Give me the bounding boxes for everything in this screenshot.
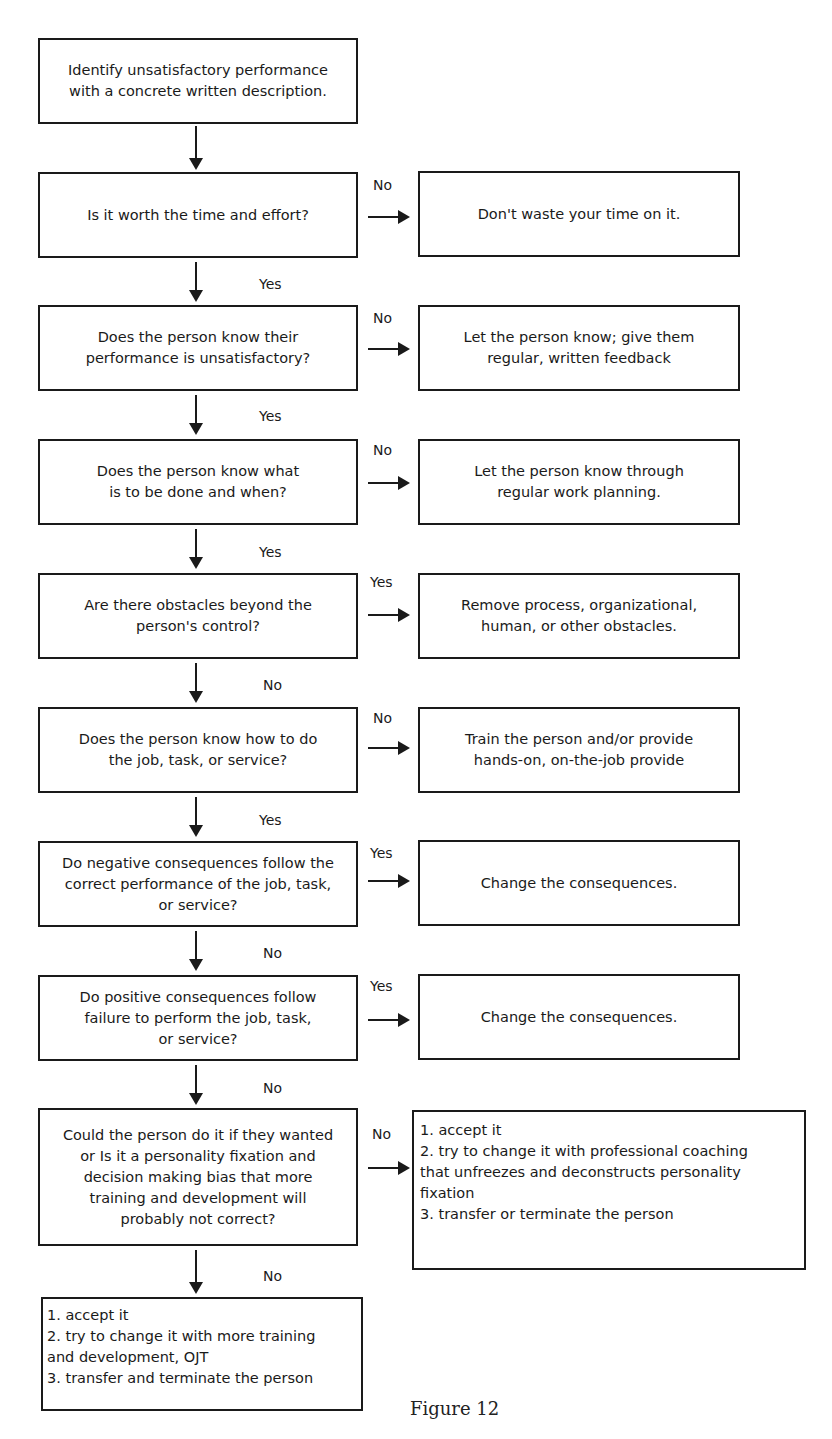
action-text-line: 1. accept it <box>420 1120 748 1141</box>
action-text-line: human, or other obstacles. <box>461 616 697 637</box>
action-text-line: Remove process, organizational, <box>461 595 697 616</box>
question-text-line: or service? <box>62 895 334 916</box>
down-arrow-icon <box>195 931 197 969</box>
action-text-line: Train the person and/or provide <box>465 729 693 750</box>
down-arrow-icon <box>195 1065 197 1103</box>
action-text-line: Let the person know through <box>474 461 684 482</box>
decision-box-positive-consequences: Do positive consequences follow failure … <box>38 975 358 1061</box>
question-text-line: Could the person do it if they wanted <box>63 1125 333 1146</box>
action-box-remove-obstacles: Remove process, organizational, human, o… <box>418 573 740 659</box>
continue-label: No <box>263 1080 282 1096</box>
question-text-line: decision making bias that more <box>63 1167 333 1188</box>
decision-box-knows-what-when: Does the person know what is to be done … <box>38 439 358 525</box>
action-box-dont-waste-time: Don't waste your time on it. <box>418 171 740 257</box>
question-text-line: Does the person know their <box>86 327 311 348</box>
end-text-line: 1. accept it <box>47 1305 315 1326</box>
continue-label: Yes <box>259 544 282 560</box>
decision-box-knows-unsatisfactory: Does the person know their performance i… <box>38 305 358 391</box>
action-text-line: 3. transfer or terminate the person <box>420 1204 748 1225</box>
question-text-line: or Is it a personality fixation and <box>63 1146 333 1167</box>
action-box-work-planning: Let the person know through regular work… <box>418 439 740 525</box>
end-text-line: and development, OJT <box>47 1347 315 1368</box>
start-text-line: with a concrete written description. <box>68 81 328 102</box>
start-box: Identify unsatisfactory performance with… <box>38 38 358 124</box>
continue-label: Yes <box>259 812 282 828</box>
right-arrow-icon <box>368 216 408 218</box>
branch-label: No <box>373 177 392 193</box>
question-text-line: Do positive consequences follow <box>80 987 317 1008</box>
question-text-line: Do negative consequences follow the <box>62 853 334 874</box>
action-text-line: 2. try to change it with professional co… <box>420 1141 748 1162</box>
branch-label: Yes <box>370 845 393 861</box>
question-text-line: Does the person know what <box>97 461 299 482</box>
action-box-coaching-options: 1. accept it 2. try to change it with pr… <box>412 1110 806 1270</box>
action-text-line: regular work planning. <box>474 482 684 503</box>
question-text-line: Are there obstacles beyond the <box>84 595 312 616</box>
down-arrow-icon <box>195 529 197 567</box>
continue-label: No <box>263 945 282 961</box>
down-arrow-icon <box>195 262 197 300</box>
figure-caption: Figure 12 <box>410 1398 499 1419</box>
right-arrow-icon <box>368 614 408 616</box>
question-text-line: Does the person know how to do <box>79 729 318 750</box>
continue-label: No <box>263 677 282 693</box>
action-text: Change the consequences. <box>481 873 678 894</box>
action-box-give-feedback: Let the person know; give them regular, … <box>418 305 740 391</box>
right-arrow-icon <box>368 1167 408 1169</box>
decision-box-worth-effort: Is it worth the time and effort? <box>38 172 358 258</box>
question-text-line: training and development will <box>63 1188 333 1209</box>
action-text-line: hands-on, on-the-job provide <box>465 750 693 771</box>
action-text-line: regular, written feedback <box>464 348 695 369</box>
branch-label: Yes <box>370 978 393 994</box>
down-arrow-icon <box>195 1250 197 1292</box>
question-text-line: failure to perform the job, task, <box>80 1008 317 1029</box>
right-arrow-icon <box>368 482 408 484</box>
continue-label: Yes <box>259 276 282 292</box>
action-box-change-consequences: Change the consequences. <box>418 840 740 926</box>
down-arrow-icon <box>195 797 197 835</box>
decision-box-knows-how: Does the person know how to do the job, … <box>38 707 358 793</box>
question-text-line: is to be done and when? <box>97 482 299 503</box>
down-arrow-icon <box>195 395 197 433</box>
end-box-training-options: 1. accept it 2. try to change it with mo… <box>41 1297 363 1411</box>
branch-label: No <box>373 442 392 458</box>
decision-box-obstacles: Are there obstacles beyond the person's … <box>38 573 358 659</box>
end-text-line: 3. transfer and terminate the person <box>47 1368 315 1389</box>
continue-label: Yes <box>259 408 282 424</box>
right-arrow-icon <box>368 348 408 350</box>
right-arrow-icon <box>368 1019 408 1021</box>
question-text-line: performance is unsatisfactory? <box>86 348 311 369</box>
action-text-line: Let the person know; give them <box>464 327 695 348</box>
branch-label: Yes <box>370 574 393 590</box>
start-text-line: Identify unsatisfactory performance <box>68 60 328 81</box>
question-text-line: correct performance of the job, task, <box>62 874 334 895</box>
branch-label: No <box>373 310 392 326</box>
action-box-train-person: Train the person and/or provide hands-on… <box>418 707 740 793</box>
down-arrow-icon <box>195 126 197 168</box>
decision-box-personality-fixation: Could the person do it if they wanted or… <box>38 1108 358 1246</box>
question-text-line: person's control? <box>84 616 312 637</box>
question-text-line: probably not correct? <box>63 1209 333 1230</box>
right-arrow-icon <box>368 747 408 749</box>
branch-label: No <box>373 710 392 726</box>
action-text-line: fixation <box>420 1183 748 1204</box>
action-text-line: that unfreezes and deconstructs personal… <box>420 1162 748 1183</box>
action-box-change-consequences: Change the consequences. <box>418 974 740 1060</box>
action-text: Change the consequences. <box>481 1007 678 1028</box>
branch-label: No <box>372 1126 391 1142</box>
down-arrow-icon <box>195 663 197 701</box>
end-text-line: 2. try to change it with more training <box>47 1326 315 1347</box>
question-text-line: the job, task, or service? <box>79 750 318 771</box>
decision-box-negative-consequences: Do negative consequences follow the corr… <box>38 841 358 927</box>
right-arrow-icon <box>368 880 408 882</box>
action-text: Don't waste your time on it. <box>478 204 681 225</box>
question-text-line: or service? <box>80 1029 317 1050</box>
question-text: Is it worth the time and effort? <box>87 205 309 226</box>
continue-label: No <box>263 1268 282 1284</box>
